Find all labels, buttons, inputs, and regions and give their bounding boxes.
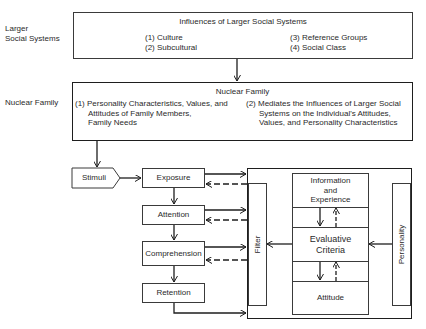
core-line: Criteria bbox=[316, 245, 345, 256]
information-experience-box: Information and Experience bbox=[292, 173, 369, 208]
attitude-box: Attitude bbox=[292, 281, 369, 315]
process-step-comprehension: Comprehension bbox=[142, 241, 205, 266]
process-step-retention: Retention bbox=[142, 283, 205, 303]
core-line: and bbox=[324, 186, 337, 196]
core-line: Evaluative bbox=[310, 234, 352, 245]
core-line: Experience bbox=[310, 195, 350, 205]
process-step-attention: Attention bbox=[142, 205, 205, 225]
filter-box: Filter bbox=[248, 183, 267, 306]
filter-label: Filter bbox=[253, 215, 262, 275]
stimuli-label: Stimuli bbox=[72, 168, 116, 188]
evaluative-criteria-box: Evaluative Criteria bbox=[292, 227, 369, 262]
personality-label: Personality bbox=[397, 215, 406, 275]
personality-box: Personality bbox=[392, 183, 411, 306]
process-step-exposure: Exposure bbox=[142, 168, 205, 188]
core-line: Information bbox=[310, 176, 350, 186]
